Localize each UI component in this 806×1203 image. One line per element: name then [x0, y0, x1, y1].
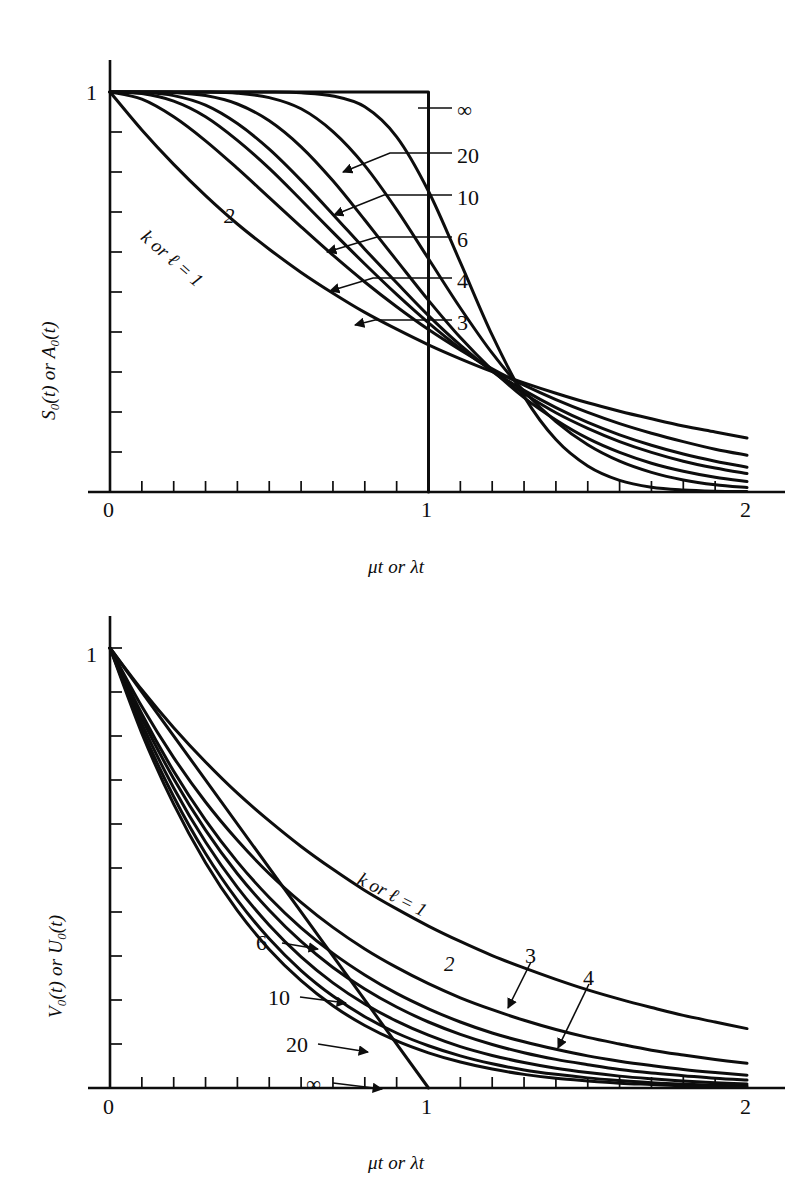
curve-label-4-top: 4 — [457, 268, 468, 294]
curve-label-4-bottom: 4 — [583, 965, 594, 991]
curve-6 — [110, 648, 747, 1084]
y-axis-label-top: S0(t) or A0(t) — [38, 321, 63, 420]
x-tick-2-bottom: 2 — [740, 1094, 751, 1120]
leader-4-bottom — [558, 984, 589, 1048]
x-tick-0-top: 0 — [103, 497, 114, 523]
curve-label-10-top: 10 — [457, 185, 479, 211]
curve-label-2-top: 2 — [224, 204, 235, 229]
y-axis-label-bottom: V0(t) or U0(t) — [45, 915, 70, 1018]
x-axis-label-bottom-text: μt or λt — [368, 1152, 424, 1173]
curve-label-20-top: 20 — [457, 143, 479, 169]
x-tick-1-top: 1 — [421, 497, 432, 523]
curve-k-or-1 — [110, 648, 747, 1029]
y-tick-1-top: 1 — [86, 80, 97, 106]
leader-20-bottom — [318, 1044, 368, 1052]
curve-- — [110, 92, 429, 492]
chart-panel-bottom: V0(t) or U0(t) μt or λt 0 1 2 1 6 10 20 … — [0, 600, 806, 1203]
curve-label-inf-bottom: ∞ — [306, 1072, 321, 1097]
y-tick-1-bottom: 1 — [86, 642, 97, 668]
x-axis-label-bottom: μt or λt — [368, 1152, 424, 1174]
y-axis-label-top-text: S0(t) or A0(t) — [38, 321, 59, 420]
curve-label-3-bottom: 3 — [525, 943, 536, 969]
x-tick-0-bottom: 0 — [103, 1094, 114, 1120]
curve-label-inf-top: ∞ — [457, 98, 472, 123]
plot-area-top — [0, 0, 806, 600]
x-tick-2-top: 2 — [740, 497, 751, 523]
figure-root: S0(t) or A0(t) μt or λt 0 1 2 1 ∞ 20 10 … — [0, 0, 806, 1203]
curve-label-3-top: 3 — [457, 310, 468, 336]
curve-label-2-bottom: 2 — [444, 952, 455, 977]
chart-panel-top: S0(t) or A0(t) μt or λt 0 1 2 1 ∞ 20 10 … — [0, 0, 806, 600]
curve-label-6-top: 6 — [457, 227, 468, 253]
curve-10 — [110, 648, 747, 1086]
y-axis-label-bottom-text: V0(t) or U0(t) — [45, 915, 66, 1018]
x-axis-label-top: μt or λt — [368, 556, 424, 578]
curve-label-20-bottom: 20 — [286, 1032, 308, 1058]
x-axis-label-top-text: μt or λt — [368, 556, 424, 577]
curve-- — [110, 648, 429, 1088]
curve-label-6-bottom: 6 — [256, 930, 267, 956]
curve-label-10-bottom: 10 — [268, 985, 290, 1011]
leader-20-top — [343, 153, 452, 172]
x-tick-1-bottom: 1 — [421, 1094, 432, 1120]
